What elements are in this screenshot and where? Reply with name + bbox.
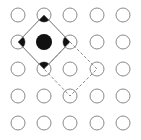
grid-node	[11, 89, 25, 103]
grid-node	[90, 89, 104, 103]
grid-node	[37, 116, 51, 130]
grid-node	[90, 8, 104, 22]
grid-node	[90, 116, 104, 130]
grid-node	[116, 116, 130, 130]
grid-circles	[11, 8, 130, 130]
grid-node	[63, 116, 77, 130]
grid-node	[11, 62, 25, 76]
grid-node	[63, 8, 77, 22]
grid-node	[116, 35, 130, 49]
grid-node	[11, 116, 25, 130]
grid-node	[90, 35, 104, 49]
filled-center-node	[36, 34, 52, 50]
grid-node	[37, 89, 51, 103]
grid-node	[116, 62, 130, 76]
grid-node	[116, 8, 130, 22]
grid-node	[116, 89, 130, 103]
grid-node	[63, 62, 77, 76]
grid-node	[11, 8, 25, 22]
lattice-diagram	[0, 0, 141, 140]
